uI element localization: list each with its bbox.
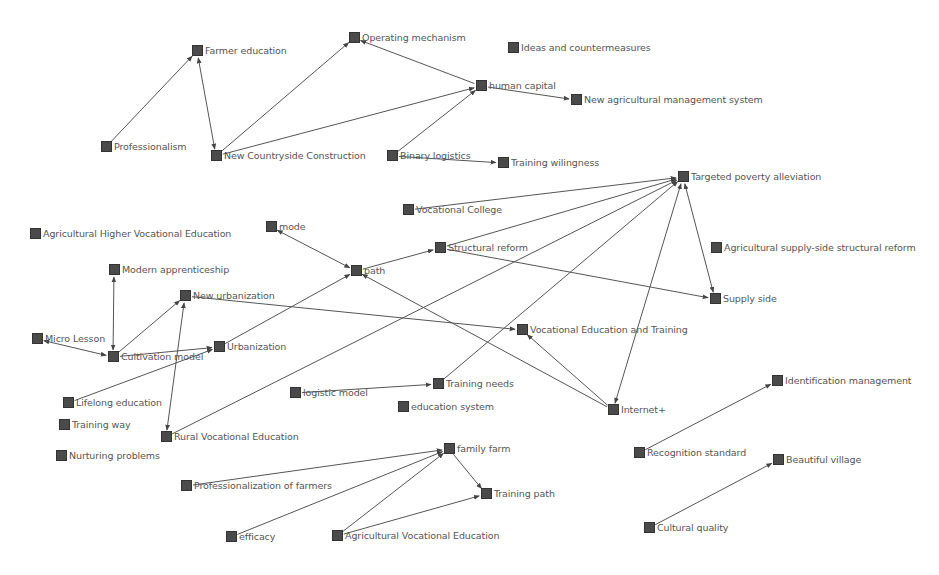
graph-node[interactable]: Supply side [710,293,777,304]
graph-node[interactable]: Structural reform [435,242,528,253]
graph-node[interactable]: family farm [444,443,510,454]
node-square-icon [634,447,645,458]
node-label: Beautiful village [786,454,861,465]
node-label: Training wilingness [511,157,599,168]
graph-node[interactable]: New urbanization [180,290,275,301]
graph-node[interactable]: Training way [59,419,131,430]
node-label: efficacy [239,531,275,542]
node-square-icon [476,80,487,91]
graph-node[interactable]: human capital [476,80,556,91]
graph-node[interactable]: Recognition standard [634,447,746,458]
graph-node[interactable]: New agricultural management system [571,94,763,105]
graph-node[interactable]: Micro Lesson [32,333,105,344]
graph-node[interactable]: Beautiful village [773,454,861,465]
graph-node[interactable]: Binary logistics [387,150,471,161]
graph-edge [615,184,681,404]
node-square-icon [508,42,519,53]
graph-node[interactable]: Identification management [772,375,911,386]
graph-node[interactable]: Urbanization [214,341,286,352]
node-square-icon [773,454,784,465]
graph-node[interactable]: Nurturing problems [56,450,160,461]
node-square-icon [517,324,528,335]
node-square-icon [398,401,409,412]
node-square-icon [435,242,446,253]
graph-node[interactable]: efficacy [226,531,275,542]
node-label: Recognition standard [647,447,746,458]
graph-node[interactable]: Training needs [433,378,514,389]
node-square-icon [481,488,492,499]
graph-edge [172,180,676,434]
node-square-icon [608,404,619,415]
graph-edge [361,40,475,83]
node-label: Lifelong education [76,397,162,408]
graph-node[interactable]: logistic model [290,387,368,398]
node-square-icon [226,531,237,542]
node-square-icon [571,94,582,105]
node-label: Farmer education [205,45,287,56]
graph-node[interactable]: path [351,265,385,276]
graph-node[interactable]: Agricultural Vocational Education [332,530,499,541]
node-label: Training needs [446,378,514,389]
graph-node[interactable]: Cultural quality [644,522,728,533]
node-label: path [364,265,385,276]
graph-node[interactable]: Agricultural supply-side structural refo… [711,242,916,253]
node-label: Binary logistics [400,150,471,161]
node-label: Vocational College [416,204,502,215]
graph-node[interactable]: Vocational Education and Training [517,324,688,335]
node-square-icon [109,264,120,275]
graph-node[interactable]: Internet+ [608,404,666,415]
graph-node[interactable]: Training wilingness [498,157,599,168]
node-label: mode [279,221,306,232]
node-square-icon [30,228,41,239]
graph-node[interactable]: mode [266,221,306,232]
graph-edge [645,384,771,450]
graph-node[interactable]: Operating mechanism [349,32,466,43]
node-label: Agricultural Vocational Education [345,530,499,541]
graph-edge [453,454,481,488]
graph-node[interactable]: Vocational College [403,204,502,215]
graph-node[interactable]: New Countryside Construction [211,150,366,161]
node-label: New agricultural management system [584,94,763,105]
graph-node[interactable]: Farmer education [192,45,287,56]
graph-node[interactable]: Cultivation model [108,351,203,362]
node-label: Cultural quality [657,522,728,533]
graph-node[interactable]: Agricultural Higher Vocational Education [30,228,231,239]
graph-node[interactable]: Modern apprenticeship [109,264,229,275]
node-square-icon [56,450,67,461]
node-label: Modern apprenticeship [122,264,229,275]
node-square-icon [772,375,783,386]
graph-node[interactable]: Targeted poverty alleviation [678,171,821,182]
node-square-icon [211,150,222,161]
graph-edge [198,58,215,149]
graph-edge [192,297,515,330]
graph-edge [398,90,476,151]
node-square-icon [498,157,509,168]
node-label: education system [411,401,494,412]
node-square-icon [351,265,362,276]
node-label: Training path [494,488,555,499]
node-square-icon [332,530,343,541]
node-label: Structural reform [448,242,528,253]
graph-node[interactable]: Professionalism [101,141,186,152]
node-square-icon [59,419,70,430]
graph-node[interactable]: Rural Vocational Education [161,431,299,442]
graph-node[interactable]: education system [398,401,494,412]
node-label: Targeted poverty alleviation [691,171,821,182]
node-square-icon [214,341,225,352]
node-square-icon [63,397,74,408]
node-square-icon [32,333,43,344]
graph-node[interactable]: Ideas and countermeasures [508,42,651,53]
graph-edge [113,277,114,350]
graph-node[interactable]: Lifelong education [63,397,162,408]
node-label: Internet+ [621,404,666,415]
node-square-icon [387,150,398,161]
graph-node[interactable]: Training path [481,488,555,499]
node-square-icon [181,480,192,491]
node-label: New Countryside Construction [224,150,366,161]
graph-edge [167,303,184,430]
graph-node[interactable]: Professionalization of farmers [181,480,332,491]
node-label: Agricultural supply-side structural refo… [724,242,916,253]
graph-edge [447,249,708,297]
node-label: Vocational Education and Training [530,324,688,335]
node-square-icon [108,351,119,362]
